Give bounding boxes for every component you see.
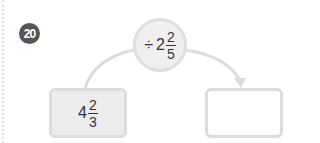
start-numerator: 2 [89, 98, 97, 112]
operator-circle: ÷ 2 2 5 [133, 18, 187, 72]
start-fraction: 2 3 [88, 98, 98, 129]
start-whole: 4 [78, 104, 87, 122]
operator-denominator: 5 [167, 47, 175, 61]
start-denominator: 3 [89, 115, 97, 129]
divide-sign: ÷ [144, 36, 153, 54]
operator-fraction: 2 5 [166, 30, 176, 61]
arrow-head-icon [234, 78, 246, 88]
start-value-box: 4 2 3 [49, 88, 127, 138]
operator-numerator: 2 [167, 30, 175, 44]
answer-box[interactable] [205, 88, 283, 138]
operator-whole: 2 [156, 36, 165, 54]
